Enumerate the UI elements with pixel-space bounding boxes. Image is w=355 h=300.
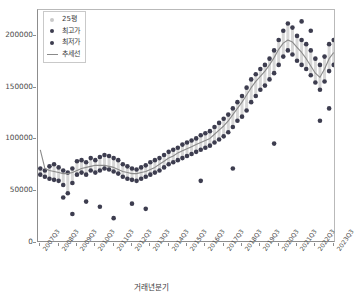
high-price-point: [198, 133, 203, 138]
x-tick-mark: [223, 243, 224, 246]
low-price-point: [281, 54, 286, 59]
outlier-point: [308, 28, 313, 33]
range-bar: [245, 88, 248, 111]
x-tick-label: 2023Q3: [335, 228, 355, 252]
low-price-point: [121, 174, 126, 179]
low-price-point: [116, 171, 121, 176]
x-tick-mark: [186, 243, 187, 246]
low-price-point: [189, 152, 194, 157]
outlier-point: [318, 119, 323, 124]
low-price-point: [276, 63, 281, 68]
low-price-point: [66, 191, 71, 196]
high-price-point: [194, 136, 199, 141]
low-price-point: [263, 83, 268, 88]
low-price-point: [327, 69, 332, 74]
outlier-point: [143, 207, 148, 212]
low-price-point: [47, 177, 52, 182]
low-price-point: [221, 134, 226, 139]
high-price-point: [313, 56, 318, 61]
x-tick-mark: [314, 243, 315, 246]
y-tick-mark: [33, 35, 36, 36]
high-price-point: [134, 167, 139, 172]
legend-label: 추세선: [62, 50, 80, 59]
trendline-swatch-icon: [47, 50, 58, 59]
high-price-point: [331, 38, 335, 43]
legend-item-3: 최저가: [47, 38, 80, 47]
low-price-point: [88, 168, 93, 173]
low-price-point: [171, 160, 176, 165]
low-price-point: [153, 170, 158, 175]
low-price-point: [322, 79, 327, 84]
high-price-point: [47, 164, 52, 169]
legend-label: 최저가: [62, 38, 80, 47]
legend-item-4: 추세선: [47, 50, 80, 59]
low-price-point: [308, 73, 313, 78]
low-price-point: [267, 77, 272, 82]
outlier-point: [111, 216, 116, 221]
y-tick-label: 200000: [0, 31, 33, 38]
low-price-point: [295, 58, 300, 63]
marker-swatch-icon: [47, 27, 58, 36]
low-price-point: [226, 130, 231, 135]
range-bar: [231, 108, 234, 127]
low-price-point: [102, 166, 107, 171]
low-price-point: [84, 172, 89, 177]
high-price-point: [189, 138, 194, 143]
high-price-point: [217, 121, 222, 126]
chart-legend: 25평최고가최저가추세선: [43, 11, 86, 63]
x-axis-title-text: 거래년분기: [134, 281, 207, 292]
y-tick-mark: [33, 87, 36, 88]
low-price-point: [235, 119, 240, 124]
high-price-point: [244, 85, 249, 90]
x-tick-mark: [259, 243, 260, 246]
high-price-point: [38, 166, 43, 171]
x-tick-mark: [94, 243, 95, 246]
legend-label: 25평: [62, 15, 77, 24]
y-tick-label: 0: [0, 238, 33, 245]
x-tick-mark: [76, 243, 77, 246]
outlier-point: [98, 204, 103, 209]
low-price-point: [75, 172, 80, 177]
outlier-point: [272, 141, 277, 146]
high-price-point: [203, 131, 208, 136]
high-price-point: [304, 42, 309, 47]
low-price-point: [43, 174, 48, 179]
high-price-point: [308, 48, 313, 53]
high-price-point: [66, 170, 71, 175]
low-price-point: [244, 108, 249, 113]
high-price-point: [221, 116, 226, 121]
low-price-point: [134, 179, 139, 184]
low-price-point: [148, 172, 153, 177]
range-bar: [227, 115, 230, 133]
high-price-point: [212, 125, 217, 130]
high-price-point: [171, 148, 176, 153]
dot-swatch: [50, 41, 54, 45]
high-price-point: [295, 34, 300, 39]
low-price-point: [240, 114, 245, 119]
legend-item-2: 최고가: [47, 27, 80, 36]
low-price-point: [56, 179, 61, 184]
low-price-point: [143, 174, 148, 179]
low-price-point: [231, 125, 236, 130]
low-price-point: [111, 169, 116, 174]
range-bar: [263, 65, 266, 86]
low-price-point: [203, 145, 208, 150]
high-price-point: [56, 165, 61, 170]
outlier-point: [327, 106, 332, 111]
high-price-point: [180, 142, 185, 147]
legend-label: 최고가: [62, 27, 80, 36]
low-price-point: [304, 67, 309, 72]
low-price-point: [180, 156, 185, 161]
low-price-point: [93, 170, 98, 175]
range-bar: [259, 69, 262, 90]
high-price-point: [176, 145, 181, 150]
high-price-point: [88, 156, 93, 161]
low-price-point: [139, 177, 144, 182]
x-tick-mark: [204, 243, 205, 246]
high-price-point: [272, 48, 277, 53]
low-price-point: [290, 52, 295, 57]
high-price-point: [226, 112, 231, 117]
high-price-point: [231, 106, 236, 111]
dot-swatch: [50, 18, 54, 22]
